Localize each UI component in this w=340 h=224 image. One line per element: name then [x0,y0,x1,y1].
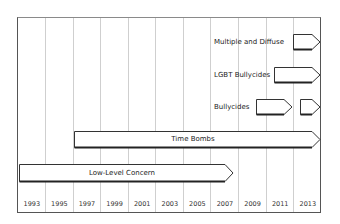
grid-line [100,18,101,212]
year-label: 2007 [211,200,239,208]
grid-line [155,18,156,212]
bar-low-level-concern: Low-Level Concern [19,164,234,180]
grid-line [73,18,74,212]
grid-line [183,18,184,212]
bar-lgbt-bullycides [274,67,321,83]
bar-bullycides-2 [300,99,321,115]
year-label: 1995 [46,200,74,208]
year-label: 1999 [101,200,129,208]
grid-line [210,18,211,212]
bar-time-bombs: Time Bombs [74,131,321,147]
bar-multiple-and-diffuse [293,34,321,50]
label-lgbt-bullycides: LGBT Bullycides [214,71,270,79]
grid-line [128,18,129,212]
bar-bullycides-1 [256,99,293,115]
year-label: 2001 [128,200,156,208]
year-label: 2011 [266,200,294,208]
year-label: 2003 [156,200,184,208]
grid-line [238,18,239,212]
label-low-level-concern: Low-Level Concern [19,164,225,182]
year-label: 1993 [18,200,46,208]
year-label: 2009 [239,200,267,208]
label-time-bombs: Time Bombs [74,131,312,147]
year-label: 2013 [294,200,322,208]
label-bullycides: Bullycides [214,103,249,111]
year-label: 1997 [73,200,101,208]
label-multiple-and-diffuse: Multiple and Diffuse [214,38,284,46]
grid-line [45,18,46,212]
year-label: 2005 [184,200,212,208]
